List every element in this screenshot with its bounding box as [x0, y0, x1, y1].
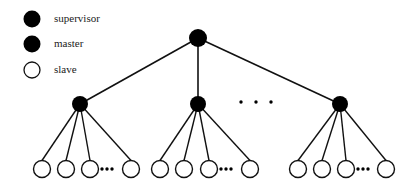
legend-label-supervisor: supervisor — [54, 12, 100, 24]
edge-master-slave — [80, 104, 131, 161]
master-node — [72, 96, 88, 112]
ellipsis-dot — [105, 167, 108, 170]
legend-label-master: master — [54, 37, 83, 49]
ellipsis-dot — [269, 100, 272, 103]
ellipsis-dot — [110, 167, 113, 170]
slave-node — [338, 161, 355, 178]
ellipsis-dot — [361, 167, 364, 170]
edge-supervisor-master — [80, 38, 198, 104]
edge-master-slave — [322, 104, 340, 161]
ellipsis-dot — [224, 167, 227, 170]
edge-master-slave — [160, 104, 198, 161]
master-node — [190, 96, 206, 112]
slave-node — [176, 161, 193, 178]
legend-supervisor-icon — [24, 11, 41, 28]
slave-node — [58, 161, 75, 178]
slave-node — [290, 161, 307, 178]
slave-node — [152, 161, 169, 178]
edge-master-slave — [198, 104, 250, 161]
supervisor-node — [189, 29, 207, 47]
slave-node — [201, 161, 218, 178]
master-node — [332, 96, 348, 112]
edge-master-slave — [298, 104, 340, 161]
slave-node — [123, 161, 140, 178]
ellipsis-dot — [229, 167, 232, 170]
ellipsis-dot — [356, 167, 359, 170]
edge-master-slave — [340, 104, 386, 161]
legend-label-slave: slave — [54, 63, 77, 75]
edge-supervisor-master — [198, 38, 340, 104]
ellipsis-dot — [366, 167, 369, 170]
edge-master-slave — [198, 104, 209, 161]
slave-node — [314, 161, 331, 178]
edge-master-slave — [340, 104, 346, 161]
ellipsis-dot — [254, 100, 257, 103]
legend-slave-icon — [24, 62, 40, 78]
ellipsis-dot — [239, 100, 242, 103]
legend-master-icon — [24, 36, 41, 53]
hierarchy-diagram — [0, 0, 414, 190]
ellipsis-dot — [100, 167, 103, 170]
edge-master-slave — [42, 104, 80, 161]
slave-node — [82, 161, 99, 178]
ellipsis-dot — [219, 167, 222, 170]
edge-master-slave — [184, 104, 198, 161]
edge-master-slave — [66, 104, 80, 161]
slave-node — [34, 161, 51, 178]
slave-node — [242, 161, 259, 178]
slave-node — [378, 161, 395, 178]
